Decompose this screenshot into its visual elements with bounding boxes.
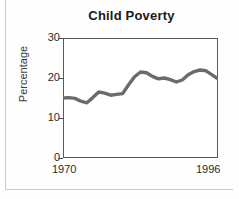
- y-tick-mark-0: [58, 158, 63, 159]
- data-line-plot: [63, 38, 218, 158]
- x-tick-label-1970: 1970: [52, 163, 76, 175]
- series-polyline-child-poverty: [63, 70, 218, 103]
- y-tick-label-20: 20: [38, 72, 60, 83]
- x-tick-label-1996: 1996: [196, 163, 220, 175]
- page-border-left: [5, 0, 6, 190]
- chart-figure: Child Poverty Percentage 30 20 10 0 1970…: [0, 0, 239, 199]
- y-tick-label-10: 10: [38, 112, 60, 123]
- y-tick-label-30: 30: [38, 32, 60, 43]
- y-axis-label: Percentage: [17, 24, 29, 124]
- y-tick-label-0: 0: [38, 152, 60, 163]
